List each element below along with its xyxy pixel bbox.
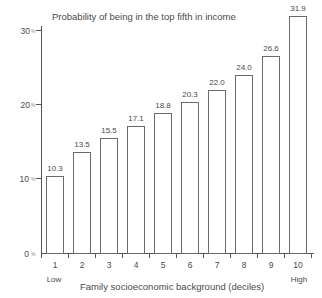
chart-title-group: Probability of being in the top fifth in… [52, 11, 236, 22]
y-tick-unit-30: % [31, 28, 36, 34]
bar-chart-figure: Probability of being in the top fifth in… [0, 0, 322, 298]
bar-value-label-4: 17.1 [128, 114, 144, 123]
bar-value-label-10: 31.9 [290, 4, 306, 13]
y-tick-label-20: 20 [21, 100, 31, 110]
bar-decile-10 [290, 17, 307, 254]
y-axis: 30 % 20 % 10 % 0 % [20, 26, 42, 259]
y-tick-unit-20: % [31, 102, 36, 108]
x-axis: 1 2 3 4 5 6 7 8 9 10 Low High Family soc… [42, 254, 315, 293]
bar-decile-6 [182, 103, 199, 254]
x-tick-label-10: 10 [293, 260, 303, 270]
bar-decile-5 [155, 114, 172, 254]
bar-value-label-5: 18.8 [155, 101, 171, 110]
x-tick-label-2: 2 [80, 260, 85, 270]
x-axis-title: Family socioeconomic background (deciles… [80, 281, 264, 292]
x-axis-low-label: Low [47, 275, 62, 284]
bar-decile-7 [209, 91, 226, 254]
x-tick-label-1: 1 [53, 260, 58, 270]
bar-decile-8 [236, 76, 253, 254]
x-tick-label-6: 6 [188, 260, 193, 270]
x-axis-high-label: High [291, 275, 307, 284]
bar-decile-9 [263, 57, 280, 254]
chart-title: Probability of being in the top fifth in… [52, 11, 236, 22]
x-tick-label-9: 9 [269, 260, 274, 270]
bar-value-label-6: 20.3 [182, 90, 198, 99]
bar-decile-3 [101, 139, 118, 254]
bar-value-label-2: 13.5 [74, 140, 90, 149]
bar-value-label-1: 10.3 [47, 164, 63, 173]
x-tick-label-3: 3 [107, 260, 112, 270]
x-tick-label-4: 4 [134, 260, 139, 270]
y-tick-unit-10: % [31, 176, 36, 182]
chart-canvas: Probability of being in the top fifth in… [0, 0, 322, 298]
x-tick-label-5: 5 [161, 260, 166, 270]
bar-value-label-8: 24.0 [236, 63, 252, 72]
bar-value-label-3: 15.5 [101, 126, 117, 135]
bars-group: 10.3 13.5 15.5 17.1 18.8 20.3 22.0 24.0 … [47, 4, 307, 254]
bar-decile-2 [74, 153, 91, 254]
x-tick-label-8: 8 [242, 260, 247, 270]
x-tick-label-7: 7 [215, 260, 220, 270]
bar-value-label-9: 26.6 [263, 44, 279, 53]
y-tick-label-0: 0 [24, 249, 29, 259]
bar-value-label-7: 22.0 [209, 78, 225, 87]
y-tick-label-30: 30 [21, 26, 31, 36]
bar-decile-4 [128, 127, 145, 254]
y-tick-unit-0: % [31, 251, 36, 257]
bar-decile-1 [47, 177, 64, 254]
y-tick-label-10: 10 [20, 174, 30, 184]
